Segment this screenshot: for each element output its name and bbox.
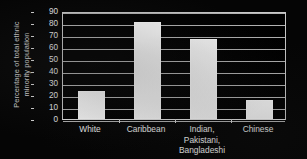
y-tick-label-60: 60 <box>36 44 58 52</box>
x-tick-2 <box>175 119 176 123</box>
x-tick-1 <box>119 119 120 123</box>
y-tick-label-50: 50 <box>36 56 58 64</box>
y-tick-label-10: 10 <box>36 104 58 112</box>
y-tick-mark-70 <box>31 36 34 37</box>
gridline-30 <box>63 85 285 86</box>
plot-area <box>62 12 286 120</box>
y-tick-label-90: 90 <box>36 8 58 16</box>
y-tick-mark-90 <box>31 12 34 13</box>
y-tick-mark-30 <box>31 84 34 85</box>
y-axis-title-line-1: Percentage of total ethnic <box>11 22 21 108</box>
x-category-label-3: Chinese <box>230 124 286 135</box>
x-category-label-2: Indian, Pakistani, Bangladeshi <box>174 124 230 156</box>
y-tick-label-40: 40 <box>36 68 58 76</box>
y-axis-tick-labels: 0102030405060708090 <box>34 12 58 120</box>
bar-3 <box>246 100 273 119</box>
y-tick-label-30: 30 <box>36 80 58 88</box>
x-category-label-1: Caribbean <box>118 124 174 135</box>
y-tick-mark-60 <box>31 48 34 49</box>
gridline-0 <box>63 121 285 122</box>
y-tick-mark-20 <box>31 96 34 97</box>
y-tick-mark-0 <box>31 120 34 121</box>
gridline-70 <box>63 37 285 38</box>
y-tick-mark-10 <box>31 108 34 109</box>
bar-0 <box>78 91 105 119</box>
y-tick-mark-40 <box>31 72 34 73</box>
gridline-50 <box>63 61 285 62</box>
y-tick-label-80: 80 <box>36 20 58 28</box>
x-category-label-0: White <box>62 124 118 135</box>
gridline-40 <box>63 73 285 74</box>
x-tick-3 <box>231 119 232 123</box>
bar-chart-figure: Percentage of total ethnic minority popu… <box>0 0 307 159</box>
gridline-80 <box>63 25 285 26</box>
x-axis-category-labels: WhiteCaribbeanIndian, Pakistani, Banglad… <box>62 124 286 159</box>
y-tick-mark-50 <box>31 60 34 61</box>
gridline-60 <box>63 49 285 50</box>
y-axis-title-line-2: minority population <box>21 22 31 108</box>
y-tick-label-70: 70 <box>36 32 58 40</box>
y-axis-title: Percentage of total ethnic minority popu… <box>6 0 36 130</box>
bar-2 <box>190 39 217 119</box>
y-tick-mark-80 <box>31 24 34 25</box>
y-tick-label-0: 0 <box>36 116 58 124</box>
y-tick-label-20: 20 <box>36 92 58 100</box>
gridline-90 <box>63 13 285 14</box>
bar-1 <box>134 22 161 119</box>
